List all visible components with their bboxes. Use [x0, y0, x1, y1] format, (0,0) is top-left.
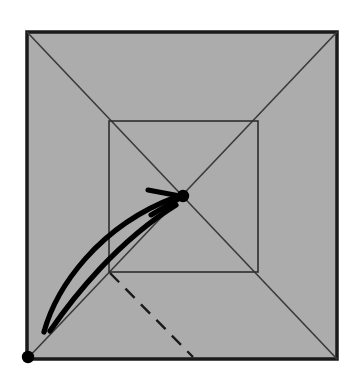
corner-point-marker: [22, 351, 34, 363]
origami-diagram: [0, 0, 361, 387]
center-point-marker: [177, 190, 189, 202]
origami-figure-canvas: [0, 0, 361, 387]
